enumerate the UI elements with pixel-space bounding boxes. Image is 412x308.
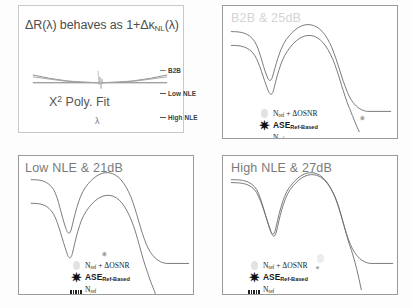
legend-line-icon bbox=[160, 70, 166, 71]
legend-item-high-nle[interactable]: High NLE bbox=[160, 114, 198, 121]
x-axis-label-lambda: λ bbox=[95, 116, 100, 126]
panel-high-nle-27db: High NLE & 27dB Nref + ΔOSNR ✷ ASERef-Ba… bbox=[222, 155, 398, 295]
poly-fit-annotation: X2 Poly. Fit bbox=[49, 94, 110, 109]
dashed-bar-icon bbox=[247, 280, 261, 295]
legend-label-sub: Ref-Based bbox=[280, 276, 308, 282]
legend-line-icon bbox=[160, 117, 166, 118]
star-icon-secondary: ✷ bbox=[315, 264, 320, 271]
panel-low-nle-21db: Low NLE & 21dB Nref + ΔOSNR ✷ ASERef-Bas… bbox=[18, 155, 194, 295]
legend-item-nref[interactable]: Nref bbox=[69, 280, 96, 295]
curve-noise-notch bbox=[98, 71, 104, 89]
legend-line-icon bbox=[160, 93, 166, 94]
legend-label-nref: Nref bbox=[85, 285, 96, 294]
legend-label: Low NLE bbox=[168, 90, 196, 97]
legend-item-nref[interactable]: Nref bbox=[247, 280, 274, 295]
curve-nref-plus-dosnr bbox=[231, 25, 391, 112]
legend-item-b2b[interactable]: B2B bbox=[160, 67, 181, 74]
legend-label-nref: Nref bbox=[263, 285, 274, 294]
legend-label: B2B bbox=[168, 67, 181, 74]
poly-fit-chart bbox=[19, 6, 183, 132]
legend-item-low-nle[interactable]: Low NLE bbox=[160, 90, 196, 97]
dashed-bar-icon bbox=[257, 128, 271, 139]
legend-label-sub: Ref-Based bbox=[290, 124, 318, 130]
legend-label-sub: ref bbox=[268, 288, 274, 294]
panel-b2b-25db: B2B & 25dB Nref + ΔOSNR ✷ ASERef-Based N… bbox=[222, 5, 398, 139]
legend-top-left: B2B Low NLE High NLE bbox=[160, 62, 212, 126]
star-icon-secondary: ✷ bbox=[101, 250, 108, 259]
dashed-bar-icon bbox=[69, 280, 83, 295]
legend-item-nref[interactable]: Nref bbox=[257, 128, 284, 139]
circle-icon-secondary bbox=[317, 254, 324, 263]
poly-fit-tail: Poly. Fit bbox=[62, 95, 110, 109]
legend-label-sub: ref bbox=[90, 288, 96, 294]
legend-label-nref: Nref bbox=[273, 133, 284, 140]
figure-root: ΔR(λ) behaves as 1+ΔκNL(λ) X2 Poly. Fit … bbox=[0, 0, 412, 308]
star-icon-secondary: ✷ bbox=[359, 114, 366, 123]
legend-label-sub: ref bbox=[278, 136, 284, 140]
curve-nref-plus-dosnr bbox=[31, 173, 189, 264]
curve-nref-plus-dosnr bbox=[231, 173, 393, 264]
legend-label: High NLE bbox=[168, 114, 198, 121]
legend-label-sub: Ref-Based bbox=[102, 276, 130, 282]
